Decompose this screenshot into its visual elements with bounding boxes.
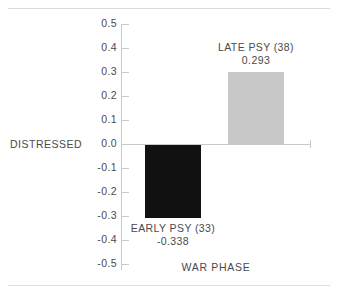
y-tick-mark [121, 24, 129, 25]
y-tick-neg0.1: -0.1 [0, 162, 117, 174]
y-tick-label: 0.2 [81, 90, 117, 101]
y-tick-label: 0.0 [81, 138, 117, 149]
y-tick-label: 0.3 [81, 66, 117, 77]
y-tick-label: -0.2 [81, 186, 117, 197]
bar-value-label: 0.293 [196, 54, 316, 67]
bar-category-label: LATE PSY (38) [196, 41, 316, 54]
y-tick-label: -0.5 [81, 258, 117, 269]
bar-early-psy [145, 145, 201, 218]
y-tick-mark [121, 48, 129, 49]
y-tick-label: 0.1 [81, 114, 117, 125]
bar-label-early-psy: EARLY PSY (33) -0.338 [113, 222, 233, 248]
bar-value-label: -0.338 [113, 235, 233, 248]
y-tick-0.5: 0.5 [0, 18, 117, 30]
zero-baseline-end-tick [310, 140, 311, 148]
y-tick-mark [121, 216, 129, 217]
y-tick-0.1: 0.1 [0, 114, 117, 126]
y-axis-title: DISTRESSED [10, 138, 82, 150]
y-tick-mark [121, 168, 129, 169]
y-tick-mark [121, 192, 129, 193]
y-tick-mark [121, 120, 129, 121]
y-tick-label: -0.3 [81, 210, 117, 221]
y-tick-label: -0.1 [81, 162, 117, 173]
y-tick-mark [121, 96, 129, 97]
y-tick-0.2: 0.2 [0, 90, 117, 102]
bar-label-late-psy: LATE PSY (38) 0.293 [196, 41, 316, 67]
y-tick-0.3: 0.3 [0, 66, 117, 78]
bar-chart: 0.5 0.4 0.3 0.2 0.1 0.0 -0.1 -0.2 -0.3 -… [0, 0, 338, 295]
bar-category-label: EARLY PSY (33) [113, 222, 233, 235]
y-tick-label: 0.4 [81, 42, 117, 53]
x-axis-title: WAR PHASE [121, 261, 311, 273]
y-tick-mark [121, 72, 129, 73]
y-tick-label: 0.5 [81, 18, 117, 29]
y-tick-0.4: 0.4 [0, 42, 117, 54]
y-tick-neg0.3: -0.3 [0, 210, 117, 222]
bar-late-psy [228, 72, 284, 144]
y-tick-label: -0.4 [81, 234, 117, 245]
y-tick-neg0.4: -0.4 [0, 234, 117, 246]
y-tick-neg0.5: -0.5 [0, 258, 117, 270]
y-tick-neg0.2: -0.2 [0, 186, 117, 198]
